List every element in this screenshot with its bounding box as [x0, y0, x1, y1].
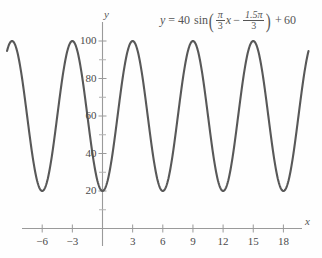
y-tick-label: 40	[67, 147, 97, 159]
chart-figure: y x −6−3369121518 20406080100 y=40sin(π3…	[0, 0, 322, 258]
x-tick-label: 18	[269, 235, 297, 247]
y-tick-label: 100	[67, 34, 97, 46]
x-tick-label: 9	[179, 235, 207, 247]
equation-equals: =	[168, 13, 175, 27]
equation-frac-two-denominator: 3	[243, 21, 265, 32]
x-tick-label: −3	[58, 235, 86, 247]
equation-lhs: y	[160, 13, 165, 27]
equation-function: sin	[194, 13, 208, 27]
equation-plus: +	[275, 13, 282, 27]
sine-curve	[7, 41, 309, 191]
x-tick-label: 15	[239, 235, 267, 247]
x-tick-label: −6	[28, 235, 56, 247]
equation-annotation: y=40sin(π3x−1.5π3)+60	[160, 10, 296, 32]
y-tick-label: 60	[67, 109, 97, 121]
plot-canvas	[0, 0, 322, 258]
equation-minus: −	[233, 13, 240, 27]
equation-variable: x	[226, 13, 231, 27]
equation-amplitude: 40	[178, 13, 190, 27]
y-tick-label: 20	[67, 184, 97, 196]
equation-frac-two: 1.5π3	[243, 10, 265, 32]
x-axis-label: x	[305, 215, 310, 227]
x-tick-label: 3	[119, 235, 147, 247]
equation-offset: 60	[284, 13, 296, 27]
equation-frac-one-denominator: 3	[216, 21, 225, 32]
equation-frac-one: π3	[216, 10, 225, 32]
y-axis-label: y	[104, 8, 109, 20]
equation-close-paren: )	[266, 15, 271, 27]
y-tick-label: 80	[67, 72, 97, 84]
x-tick-label: 12	[209, 235, 237, 247]
x-tick-label: 6	[149, 235, 177, 247]
equation-open-paren: (	[209, 15, 214, 27]
